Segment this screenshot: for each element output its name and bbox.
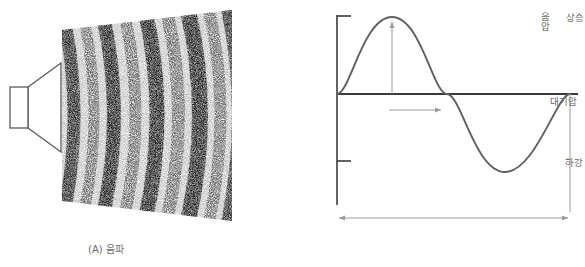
speaker-body	[10, 87, 28, 128]
panel-b-sine-wave: 음압 상승 대기압 하강 진폭 시간 1 사이클 (B) 사인파	[265, 0, 585, 267]
y-label-rise: 상승	[566, 13, 584, 24]
speaker-cone	[28, 63, 61, 152]
panel-a-sound-wave: (A) 음파	[0, 0, 290, 267]
y-axis-title: 음압	[539, 12, 551, 33]
y-label-fall: 하강	[565, 158, 583, 169]
sine-wave-plot	[265, 0, 585, 267]
sound-wave-fan	[60, 8, 235, 223]
caption-panel-a: (A) 음파	[88, 241, 124, 256]
figure-root: (A) 음파	[0, 0, 585, 267]
loudspeaker-icon	[8, 60, 68, 155]
y-label-atmospheric: 대기압	[550, 97, 577, 108]
